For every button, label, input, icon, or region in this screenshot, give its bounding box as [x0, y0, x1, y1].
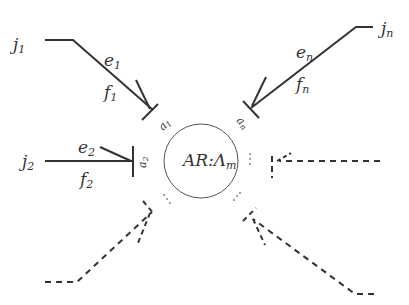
svg-text:an: an — [233, 114, 251, 132]
port-label-an: an — [233, 114, 251, 132]
dashed-edge-lower-left — [45, 201, 154, 282]
edge-line-j1 — [45, 40, 153, 110]
agent-jn-edge — [243, 27, 373, 118]
dashed-edge-lower-right — [243, 208, 374, 294]
ellipsis-lower-left — [163, 194, 171, 204]
edge-label-fn: fn — [294, 74, 309, 96]
agent-label-j1: j1 — [9, 34, 25, 56]
edge-label-f2: f2 — [78, 169, 93, 191]
agent-j1-edge — [45, 40, 158, 120]
edge-label-e1: e1 — [104, 50, 121, 72]
edge-label-f1: f1 — [102, 82, 117, 104]
edge-label-e2: e2 — [78, 137, 95, 159]
diagram-canvas: AR:Λm a1 a2 an j1 e1 f1 jn en fn j2 e2 f… — [0, 0, 409, 305]
dashed-line-lower-right — [253, 219, 374, 294]
dashed-arrowhead-lower-left — [138, 213, 150, 243]
arrowhead-e1 — [136, 80, 150, 109]
arrowhead-e2 — [100, 147, 131, 161]
port-label-a2: a2 — [136, 156, 150, 168]
dashed-line-lower-left — [45, 212, 152, 282]
dashed-arrowhead-right — [277, 153, 291, 161]
edge-label-en: en — [296, 42, 313, 64]
svg-text:a1: a1 — [156, 116, 174, 134]
agent-label-j2: j2 — [18, 151, 34, 173]
ellipsis-right — [249, 153, 251, 165]
central-label: AR:Λm — [181, 150, 237, 172]
diagram-svg: AR:Λm a1 a2 an j1 e1 f1 jn en fn j2 e2 f… — [0, 0, 409, 305]
port-label-a1: a1 — [156, 116, 174, 134]
dashed-arrowhead-lower-right — [253, 219, 265, 245]
agent-label-jn: jn — [377, 18, 393, 40]
central-node: AR:Λm — [164, 124, 238, 198]
edge-line-jn — [251, 27, 373, 108]
ellipsis-lower-right — [233, 192, 241, 201]
svg-text:a2: a2 — [136, 156, 150, 168]
dashed-edge-right — [272, 153, 380, 178]
dashed-bar-lower-left — [143, 201, 154, 214]
